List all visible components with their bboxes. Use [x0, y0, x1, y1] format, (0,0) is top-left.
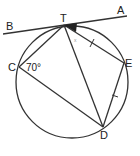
circle	[16, 26, 128, 138]
label-A: A	[117, 4, 125, 16]
label-T: T	[60, 12, 67, 24]
angle-label-C: 70°	[26, 62, 41, 73]
label-C: C	[8, 61, 16, 73]
label-E: E	[125, 57, 132, 69]
circle-diagram: T C E D A B 70° x	[0, 0, 140, 156]
label-D: D	[100, 129, 108, 141]
angle-label-x: x	[74, 37, 77, 43]
segment-CD	[19, 67, 103, 127]
label-B: B	[6, 20, 13, 32]
segment-TD	[64, 25, 103, 127]
